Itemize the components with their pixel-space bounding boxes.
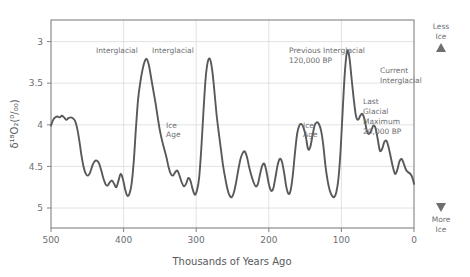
annotation-label-lgm-line3: Maximum	[363, 117, 400, 126]
annotation-interglacial-1: Interglacial	[96, 46, 138, 55]
annotation-label-lgm-line2: Glacial	[363, 107, 388, 116]
annotation-label-interglacial-1: Interglacial	[96, 46, 138, 55]
annotation-label-ice-age-1-line2: Age	[166, 130, 181, 139]
annotation-label-previous-interglacial-line1: Previous Interglacial	[289, 46, 365, 55]
y-tick-label-4p5: 4.5	[29, 162, 43, 172]
x-tick-label-300: 300	[188, 235, 205, 245]
x-tick-label-0: 0	[411, 235, 417, 245]
x-axis-title: Thousands of Years Ago	[172, 256, 292, 267]
side-label-more-ice-line2: Ice	[436, 225, 447, 234]
chart-svg: 3 3.5 4 4.5 5 500 400 300 200 100 0 Thou…	[0, 0, 470, 277]
annotation-label-previous-interglacial-line2: 120,000 BP	[289, 56, 333, 65]
chart-figure: 3 3.5 4 4.5 5 500 400 300 200 100 0 Thou…	[0, 0, 470, 277]
y-tick-label-4: 4	[37, 120, 43, 130]
annotation-label-interglacial-2: Interglacial	[152, 46, 194, 55]
annotation-interglacial-2: Interglacial	[152, 46, 194, 55]
annotation-label-ice-age-2-line2: Age	[303, 130, 318, 139]
y-tick-label-3p5: 3.5	[29, 78, 43, 88]
x-tick-label-100: 100	[333, 235, 350, 245]
y-tick-label-5: 5	[37, 203, 43, 213]
annotation-label-lgm-line4: 20,000 BP	[363, 127, 402, 136]
x-tick-label-500: 500	[42, 235, 59, 245]
annotation-label-ice-age-2-line1: Ice	[303, 121, 314, 130]
annotation-label-lgm-line1: Last	[363, 97, 379, 106]
annotation-label-ice-age-1-line1: Ice	[166, 121, 177, 130]
annotation-label-current-interglacial-line1: Current	[380, 66, 408, 75]
annotation-label-current-interglacial-line2: Interglacial	[380, 76, 422, 85]
y-axis-title: δ¹⁸O₂(⁰/₀₀)	[9, 99, 20, 148]
side-label-less-ice-line1: Less	[433, 22, 450, 31]
side-label-less-ice-line2: Ice	[436, 32, 447, 41]
x-tick-label-200: 200	[260, 235, 277, 245]
y-tick-label-3: 3	[37, 37, 43, 47]
side-label-more-ice-line1: More	[432, 215, 451, 224]
x-tick-label-400: 400	[115, 235, 132, 245]
